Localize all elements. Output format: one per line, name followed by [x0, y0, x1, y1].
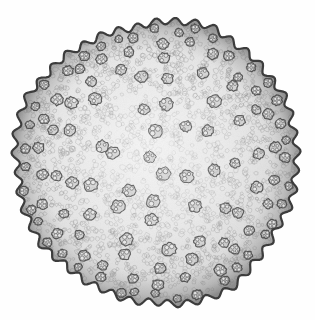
xylem-vessel	[66, 126, 70, 130]
xylem-vessel	[281, 124, 284, 127]
vascular-bundle	[51, 171, 62, 181]
xylem-vessel	[286, 141, 288, 143]
xylem-vessel	[101, 274, 104, 277]
xylem-vessel	[183, 128, 186, 131]
xylem-vessel	[80, 66, 83, 69]
xylem-vessel	[151, 26, 153, 28]
xylem-vessel	[43, 200, 47, 204]
xylem-vessel	[235, 160, 239, 164]
xylem-vessel	[283, 159, 286, 162]
xylem-vessel	[147, 221, 151, 225]
xylem-vessel	[36, 106, 39, 109]
xylem-vessel	[257, 87, 260, 90]
vascular-bundle	[244, 226, 254, 235]
vascular-bundle	[261, 230, 270, 238]
xylem-vessel	[39, 144, 42, 147]
xylem-vessel	[272, 144, 275, 147]
xylem-vessel	[257, 108, 259, 110]
xylem-vessel	[182, 173, 186, 177]
xylem-vessel	[286, 183, 289, 186]
xylem-vessel	[28, 125, 30, 127]
vascular-bundle	[38, 114, 49, 123]
xylem-vessel	[144, 106, 148, 110]
xylem-vessel	[28, 211, 30, 213]
xylem-vessel	[64, 71, 68, 75]
xylem-vessel	[270, 176, 274, 180]
xylem-vessel	[208, 127, 211, 130]
xylem-vessel	[159, 281, 163, 285]
xylem-vessel	[263, 235, 265, 237]
bundle-sheath	[267, 219, 277, 229]
xylem-vessel	[187, 42, 190, 45]
xylem-vessel	[279, 201, 282, 204]
xylem-vessel	[284, 141, 286, 143]
xylem-vessel	[216, 267, 220, 271]
xylem-vessel	[135, 292, 137, 294]
xylem-vessel	[53, 176, 57, 180]
xylem-vessel	[246, 227, 248, 229]
xylem-vessel	[190, 201, 194, 205]
xylem-vessel	[222, 281, 225, 284]
xylem-vessel	[160, 58, 164, 62]
xylem-vessel	[269, 115, 271, 117]
xylem-vessel	[151, 154, 154, 157]
xylem-vessel	[265, 200, 268, 203]
xylem-vessel	[103, 266, 106, 269]
xylem-vessel	[113, 149, 116, 152]
xylem-vessel	[210, 38, 213, 41]
xylem-vessel	[178, 296, 180, 298]
xylem-vessel	[199, 69, 202, 72]
vascular-bundle	[116, 64, 127, 75]
xylem-vessel	[198, 295, 201, 298]
xylem-vessel	[140, 110, 144, 114]
xylem-vessel	[282, 120, 284, 122]
xylem-vessel	[162, 44, 166, 48]
xylem-vessel	[48, 240, 50, 242]
xylem-vessel	[282, 154, 286, 158]
xylem-vessel	[277, 124, 280, 127]
vascular-bundle	[192, 290, 202, 300]
xylem-vessel	[286, 137, 289, 140]
xylem-vessel	[231, 250, 233, 252]
vascular-bundle	[64, 124, 75, 136]
xylem-vessel	[54, 234, 57, 237]
xylem-vessel	[36, 222, 38, 224]
xylem-vessel	[221, 204, 225, 208]
xylem-vessel	[253, 87, 256, 90]
xylem-vessel	[98, 278, 101, 281]
xylem-vessel	[53, 172, 57, 176]
xylem-vessel	[88, 82, 91, 85]
xylem-vessel	[86, 180, 91, 185]
xylem-vessel	[176, 30, 178, 32]
xylem-vessel	[155, 25, 158, 28]
xylem-vessel	[64, 67, 67, 70]
xylem-vessel	[76, 232, 78, 234]
xylem-vessel	[255, 154, 258, 157]
xylem-vessel	[116, 39, 119, 42]
xylem-vessel	[256, 90, 259, 93]
xylem-vessel	[254, 110, 256, 112]
xylem-vessel	[154, 196, 158, 200]
xylem-vessel	[26, 149, 29, 152]
vascular-bundle	[253, 148, 264, 159]
xylem-vessel	[248, 68, 251, 71]
xylem-vessel	[155, 29, 157, 31]
bundle-sheath	[263, 108, 274, 119]
xylem-vessel	[192, 26, 195, 29]
xylem-vessel	[240, 117, 243, 120]
xylem-vessel	[237, 265, 240, 268]
xylem-vessel	[140, 106, 144, 110]
vascular-bundle	[152, 280, 164, 290]
xylem-vessel	[146, 157, 150, 161]
vascular-bundle	[232, 208, 244, 219]
xylem-vessel	[43, 175, 46, 178]
xylem-vessel	[203, 69, 206, 72]
xylem-vessel	[71, 126, 74, 129]
xylem-vessel	[152, 216, 157, 221]
xylem-vessel	[177, 299, 179, 301]
vascular-bundle	[208, 34, 217, 43]
xylem-vessel	[68, 103, 72, 107]
xylem-vessel	[234, 209, 237, 212]
xylem-vessel	[265, 80, 268, 83]
xylem-vessel	[185, 273, 189, 277]
